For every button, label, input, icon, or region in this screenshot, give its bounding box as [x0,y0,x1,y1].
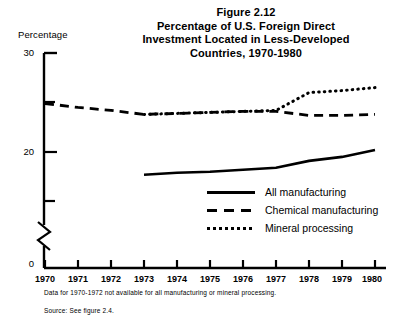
legend-item-chemical-manufacturing[interactable]: Chemical manufacturing [205,201,378,219]
legend-item-mineral-processing[interactable]: Mineral processing [205,219,378,237]
legend-swatch-solid-line-icon [205,186,257,198]
figure-footnote: Data for 1970-1972 not available for all… [44,289,276,296]
legend: All manufacturing Chemical manufacturing… [205,183,378,237]
legend-label-chemical-manufacturing: Chemical manufacturing [265,204,378,216]
legend-label-all-manufacturing: All manufacturing [265,186,346,198]
legend-label-mineral-processing: Mineral processing [265,222,353,234]
legend-swatch-dotted-line-icon [205,222,257,234]
plot-svg [0,0,399,329]
series-line-chemical-manufacturing [45,104,375,116]
axis-break-mark [38,222,50,250]
figure-source: Source: See figure 2.4. [44,307,114,314]
legend-item-all-manufacturing[interactable]: All manufacturing [205,183,378,201]
series-line-all-manufacturing [144,150,375,175]
figure-container: Figure 2.12 Percentage of U.S. Foreign D… [0,0,399,329]
legend-swatch-dashed-line-icon [205,204,257,216]
